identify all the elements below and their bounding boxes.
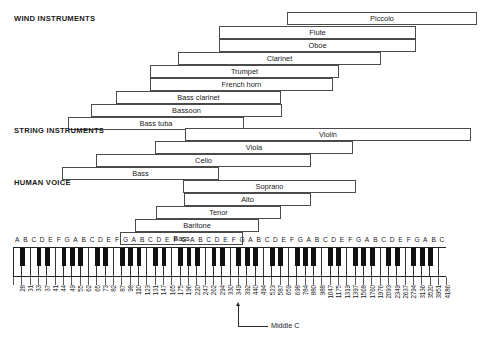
note-letter: B xyxy=(80,236,88,244)
black-key[interactable] xyxy=(295,248,300,266)
range-bar-label: Cello xyxy=(195,156,212,165)
frequency-label: 440 xyxy=(253,285,260,295)
black-key[interactable] xyxy=(220,248,225,266)
key-tick xyxy=(213,277,214,285)
frequency-label: 2093 xyxy=(386,285,393,299)
note-letter: E xyxy=(163,236,171,244)
black-key[interactable] xyxy=(178,248,183,266)
black-key[interactable] xyxy=(120,248,125,266)
frequency-label: 220 xyxy=(195,285,202,295)
key-tick xyxy=(188,277,189,285)
black-key[interactable] xyxy=(361,248,366,266)
black-key[interactable] xyxy=(62,248,67,266)
black-key[interactable] xyxy=(303,248,308,266)
frequency-label: 87 xyxy=(120,285,127,292)
callout-horizontal-line xyxy=(238,326,268,327)
black-key[interactable] xyxy=(395,248,400,266)
black-key[interactable] xyxy=(195,248,200,266)
note-letter: D xyxy=(155,236,163,244)
black-key[interactable] xyxy=(336,248,341,266)
range-bar-bassoon: Bassoon xyxy=(91,104,282,117)
key-tick xyxy=(55,277,56,285)
range-bar-label: Bass xyxy=(132,169,148,178)
black-key[interactable] xyxy=(70,248,75,266)
key-tick xyxy=(113,277,114,285)
note-letter: A xyxy=(13,236,21,244)
black-key[interactable] xyxy=(253,248,258,266)
black-key[interactable] xyxy=(370,248,375,266)
key-tick xyxy=(271,277,272,285)
instrument-range-chart: PiccoloFluteOboeClarinetTrumpetFrench ho… xyxy=(0,0,489,344)
black-key[interactable] xyxy=(162,248,167,266)
key-tick xyxy=(288,277,289,285)
range-bar-label: Trumpet xyxy=(231,67,258,76)
frequency-labels: 2831333741444955626573828798110123131147… xyxy=(13,285,446,315)
black-key[interactable] xyxy=(95,248,100,266)
frequency-label: 880 xyxy=(311,285,318,295)
range-bar-label: Bassoon xyxy=(172,106,201,115)
black-key[interactable] xyxy=(20,248,25,266)
frequency-label: 165 xyxy=(170,285,177,295)
key-tick xyxy=(246,277,247,285)
frequency-label: 28 xyxy=(20,285,27,292)
black-key[interactable] xyxy=(270,248,275,266)
range-bar-bass: Bass xyxy=(62,167,219,180)
black-key[interactable] xyxy=(428,248,433,266)
black-key[interactable] xyxy=(245,248,250,266)
black-key[interactable] xyxy=(187,248,192,266)
black-key[interactable] xyxy=(278,248,283,266)
black-key[interactable] xyxy=(353,248,358,266)
section-heading-string: STRING INSTRUMENTS xyxy=(14,126,104,136)
note-letter: F xyxy=(171,236,179,244)
key-tick xyxy=(46,277,47,285)
range-bar-tenor: Tenor xyxy=(156,206,281,219)
black-key[interactable] xyxy=(103,248,108,266)
black-key[interactable] xyxy=(328,248,333,266)
black-key[interactable] xyxy=(236,248,241,266)
key-tick xyxy=(263,277,264,285)
black-key[interactable] xyxy=(420,248,425,266)
black-key[interactable] xyxy=(45,248,50,266)
range-bar-trumpet: Trumpet xyxy=(150,65,339,78)
note-letter: D xyxy=(330,236,338,244)
frequency-label: 196 xyxy=(186,285,193,295)
white-key[interactable] xyxy=(439,248,447,276)
key-tick xyxy=(180,277,181,285)
black-key[interactable] xyxy=(411,248,416,266)
black-key[interactable] xyxy=(128,248,133,266)
note-letter: A xyxy=(363,236,371,244)
key-tick xyxy=(96,277,97,285)
range-bar-label: French horn xyxy=(222,80,262,89)
note-letter: C xyxy=(146,236,154,244)
note-letter: F xyxy=(55,236,63,244)
frequency-label: 2794 xyxy=(411,285,418,299)
note-letter: B xyxy=(196,236,204,244)
note-letter: C xyxy=(263,236,271,244)
note-letter: G xyxy=(121,236,129,244)
black-key[interactable] xyxy=(37,248,42,266)
note-letter: A xyxy=(130,236,138,244)
section-heading-voice: HUMAN VOICE xyxy=(14,178,71,188)
frequency-label: 1760 xyxy=(370,285,377,299)
note-letter: F xyxy=(113,236,121,244)
black-key[interactable] xyxy=(153,248,158,266)
note-letter: E xyxy=(396,236,404,244)
note-letter: D xyxy=(388,236,396,244)
frequency-label: 294 xyxy=(220,285,227,295)
black-key[interactable] xyxy=(386,248,391,266)
key-tick xyxy=(38,277,39,285)
note-letter: G xyxy=(413,236,421,244)
black-key[interactable] xyxy=(212,248,217,266)
note-letter: A xyxy=(188,236,196,244)
note-letter: C xyxy=(205,236,213,244)
black-key[interactable] xyxy=(78,248,83,266)
key-tick xyxy=(155,277,156,285)
black-key[interactable] xyxy=(137,248,142,266)
range-bar-clarinet: Clarinet xyxy=(178,52,381,65)
note-letter: G xyxy=(355,236,363,244)
note-letter: A xyxy=(421,236,429,244)
note-letter: D xyxy=(38,236,46,244)
key-tick xyxy=(221,277,222,285)
black-key[interactable] xyxy=(311,248,316,266)
note-letter: G xyxy=(296,236,304,244)
